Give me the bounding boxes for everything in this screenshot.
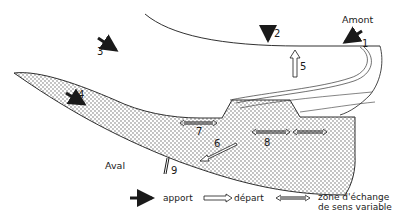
label-6: 6 <box>214 138 220 149</box>
hydro-exchange-diagram: 1 2 3 4 5 6 7 8 <box>0 0 405 222</box>
legend-outflow: départ <box>204 193 264 203</box>
legend-inflow-label: apport <box>163 193 193 203</box>
inflow-arrow-2: 2 <box>268 26 280 40</box>
inflow-arrow-3: 3 <box>97 38 116 57</box>
label-3: 3 <box>97 46 103 57</box>
label-2: 2 <box>274 28 280 39</box>
label-9: 9 <box>171 165 177 176</box>
legend: apport départ zone d'échange de sens var… <box>130 192 392 212</box>
label-4: 4 <box>78 89 84 100</box>
legend-inflow: apport <box>130 193 193 203</box>
outflow-arrow-5: 5 <box>290 50 306 77</box>
label-amont: Amont <box>342 14 374 25</box>
aquifer-body <box>14 73 355 195</box>
legend-outflow-label: départ <box>234 193 264 203</box>
exchange-zone-9: 9 <box>164 158 177 176</box>
label-5: 5 <box>300 61 306 72</box>
legend-exchange: zone d'échange de sens variable <box>276 192 392 212</box>
legend-exchange-label-2: de sens variable <box>318 202 392 212</box>
label-aval: Aval <box>105 160 125 171</box>
label-1: 1 <box>362 38 368 49</box>
label-8: 8 <box>264 137 270 148</box>
legend-exchange-label-1: zone d'échange <box>318 192 390 202</box>
label-7: 7 <box>196 126 202 137</box>
